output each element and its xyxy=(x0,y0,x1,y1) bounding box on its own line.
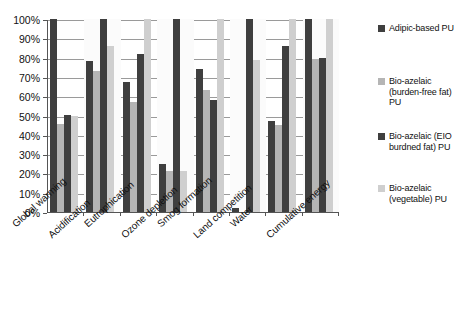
bar xyxy=(210,100,217,212)
bar xyxy=(57,124,64,212)
legend-swatch-icon xyxy=(378,78,385,85)
bar xyxy=(268,121,275,212)
bar-group xyxy=(157,19,193,212)
legend-swatch-icon xyxy=(378,185,385,192)
legend-swatch-icon xyxy=(378,25,385,32)
legend-label: Adipic-based PU xyxy=(389,23,454,34)
bar xyxy=(282,46,289,212)
bar xyxy=(289,19,296,212)
legend-item[interactable]: Bio-azelaic (burden-free fat) PU xyxy=(378,76,457,108)
bar xyxy=(93,71,100,212)
legend-item[interactable]: Bio-azelaic (EIO burdned fat) PU xyxy=(378,131,457,152)
y-tick-label: 70% xyxy=(0,73,40,83)
y-tick-label: 50% xyxy=(0,112,40,122)
bar xyxy=(107,46,114,212)
bar xyxy=(275,125,282,212)
y-tick-label: 90% xyxy=(0,34,40,44)
bar xyxy=(86,61,93,213)
legend-swatch-icon xyxy=(378,133,385,140)
bar xyxy=(130,102,137,212)
plot-area xyxy=(47,20,338,213)
y-tick-label: 30% xyxy=(0,150,40,160)
bar-group xyxy=(266,19,302,212)
bar xyxy=(305,19,312,212)
y-tick-label: 40% xyxy=(0,131,40,141)
legend-label: Bio-azelaic (EIO burdned fat) PU xyxy=(389,131,457,152)
legend-label: Bio-azelaic (burden-free fat) PU xyxy=(389,76,457,108)
bar xyxy=(203,90,210,212)
y-tick-label: 60% xyxy=(0,92,40,102)
x-axis: Global warmingAcidificationEutrophicatio… xyxy=(0,213,350,310)
bar xyxy=(71,116,78,213)
bar xyxy=(144,19,151,212)
bar xyxy=(100,19,107,212)
legend-item[interactable]: Bio-azelaic (vegetable) PU xyxy=(378,183,457,204)
legend-label: Bio-azelaic (vegetable) PU xyxy=(389,183,457,204)
y-tick-label: 80% xyxy=(0,54,40,64)
bar xyxy=(173,19,180,212)
bar xyxy=(217,19,224,212)
bar-group xyxy=(84,19,120,212)
legend-item[interactable]: Adipic-based PU xyxy=(378,23,454,34)
y-tick-label: 10% xyxy=(0,189,40,199)
bar xyxy=(253,60,260,212)
y-tick-label: 20% xyxy=(0,169,40,179)
bar-chart: 100%90%80%70%60%50%40%30%20%10%0% Global… xyxy=(0,0,457,310)
bar xyxy=(137,54,144,212)
y-tick-label: 100% xyxy=(0,15,40,25)
bar xyxy=(64,115,71,212)
